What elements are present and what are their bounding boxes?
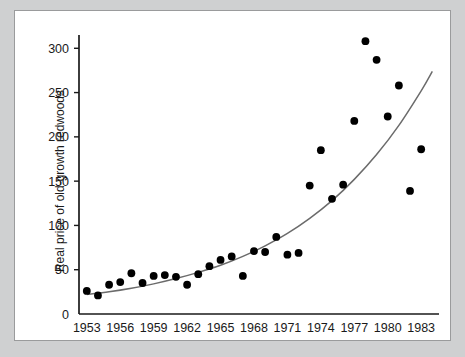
y-tick-label: 0 (62, 308, 69, 322)
data-point (339, 181, 347, 189)
y-tick-label: 250 (48, 86, 69, 100)
data-point (306, 182, 314, 190)
data-point (217, 256, 225, 264)
data-point (239, 272, 247, 280)
data-point (406, 187, 414, 195)
x-tick-label: 1965 (207, 321, 235, 335)
x-tick-label: 1956 (106, 321, 134, 335)
data-point (150, 272, 158, 280)
data-point (194, 270, 202, 278)
data-point (250, 247, 258, 255)
x-tick-label: 1962 (173, 321, 201, 335)
x-tick-labels: 1953195619591962196519681971197419771980… (73, 321, 435, 335)
x-tick-label: 1983 (407, 321, 435, 335)
data-point (116, 278, 124, 286)
figure-frame: Real price of old-growth redwoods 050100… (14, 10, 451, 341)
x-tick-label: 1953 (73, 321, 101, 335)
data-point (417, 145, 425, 153)
trend-curve (87, 71, 433, 294)
data-point (295, 249, 303, 257)
data-point (362, 37, 370, 45)
y-tick-label: 50 (55, 263, 69, 277)
data-point (317, 146, 325, 154)
data-point (272, 233, 280, 241)
data-point (384, 113, 392, 121)
data-point (139, 279, 147, 287)
data-point (350, 117, 358, 125)
x-tick-label: 1974 (307, 321, 335, 335)
data-point (94, 292, 102, 300)
data-point (373, 56, 381, 64)
data-point (172, 273, 180, 281)
y-tick-label: 150 (48, 175, 69, 189)
x-tick-label: 1980 (374, 321, 402, 335)
data-point (127, 269, 135, 277)
x-tick-label: 1959 (140, 321, 168, 335)
y-tick-label: 200 (48, 130, 69, 144)
data-point (161, 271, 169, 279)
x-tick-label: 1977 (340, 321, 368, 335)
y-tick-label: 300 (48, 42, 69, 56)
plot-stage: Real price of old-growth redwoods 050100… (15, 11, 452, 342)
data-point (284, 251, 292, 259)
data-point (183, 281, 191, 289)
x-tick-label: 1971 (274, 321, 302, 335)
scatter-chart: Real price of old-growth redwoods 050100… (15, 11, 452, 342)
y-tick-label: 100 (48, 219, 69, 233)
data-point (105, 281, 113, 289)
y-tick-labels: 050100150200250300 (48, 42, 69, 322)
data-point (261, 248, 269, 256)
data-points (83, 37, 425, 299)
data-point (83, 287, 91, 295)
data-point (395, 82, 403, 90)
data-point (328, 195, 336, 203)
x-tick-label: 1968 (240, 321, 268, 335)
data-point (228, 253, 236, 261)
data-point (206, 262, 214, 270)
